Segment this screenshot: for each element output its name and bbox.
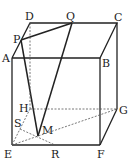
vertex-labels: D Q C P A B H G S M E R F [1,10,128,161]
label-H: H [19,102,29,115]
label-F: F [97,148,105,161]
top-face [12,23,117,58]
edge-FG [100,109,117,145]
label-M: M [42,124,53,137]
hidden-edges [12,23,117,145]
label-S: S [14,117,22,130]
prism-diagram: D Q C P A B H G S M E R F [0,0,129,166]
label-R: R [51,148,60,161]
label-C: C [114,11,122,24]
label-Q: Q [66,10,75,23]
label-D: D [25,10,34,23]
label-A: A [1,52,11,65]
label-P: P [13,33,21,46]
label-E: E [4,148,12,161]
segment-QM [38,23,72,136]
label-B: B [102,57,110,70]
visible-edges [12,23,117,145]
label-G: G [119,104,128,117]
